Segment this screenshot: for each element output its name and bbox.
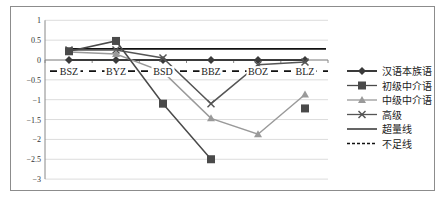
x-category-label: BSD (153, 66, 172, 77)
legend-item: 超量线 (347, 123, 412, 135)
line-chart: 10.50−0.5−1−1.5−2−2.5−3BSZBYZBSDBBZBOZBL… (0, 0, 446, 201)
triangle-marker (301, 91, 309, 98)
y-tick-label: −2 (32, 135, 41, 144)
square-marker (112, 37, 120, 45)
x-category-label: BBZ (201, 66, 220, 77)
y-tick-label: −2.5 (26, 155, 41, 164)
y-tick-label: −1.5 (26, 116, 41, 125)
legend-label: 高级 (382, 109, 402, 121)
y-tick-label: 0 (37, 56, 41, 65)
legend-item: 初级中介语 (347, 80, 432, 92)
diamond-marker (358, 67, 366, 75)
diamond-marker (65, 56, 73, 64)
square-marker (65, 47, 73, 55)
diamond-marker (207, 56, 215, 64)
y-tick-label: −1 (32, 96, 41, 105)
square-marker (301, 104, 309, 112)
y-tick-label: −3 (32, 175, 41, 184)
x-category-label: BOZ (248, 66, 268, 77)
legend-label: 汉语本族语 (382, 65, 432, 77)
legend-item: 汉语本族语 (347, 65, 432, 77)
legend-label: 中级中介语 (382, 94, 432, 106)
square-marker (358, 82, 366, 90)
y-tick-label: 0.5 (31, 36, 41, 45)
legend: 汉语本族语初级中介语中级中介语高级超量线不足线 (347, 65, 432, 150)
y-tick-label: −0.5 (26, 76, 41, 85)
square-marker (207, 155, 215, 163)
legend-label: 不足线 (382, 138, 412, 150)
x-category-label: BYZ (106, 66, 126, 77)
x-category-label: BSZ (60, 66, 78, 77)
series-3 (66, 47, 309, 108)
gridlines (45, 20, 328, 179)
square-marker (159, 100, 167, 108)
x-category-label: BLZ (296, 66, 315, 77)
legend-label: 初级中介语 (382, 80, 432, 92)
legend-label: 超量线 (382, 123, 412, 135)
legend-item: 中级中介语 (347, 94, 432, 106)
legend-item: 不足线 (347, 138, 412, 150)
diamond-marker (112, 56, 120, 64)
legend-item: 高级 (347, 109, 402, 121)
y-tick-label: 1 (37, 16, 41, 25)
